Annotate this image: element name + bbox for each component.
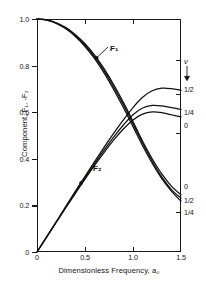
x-axis-title: Dimensionless Frequency, a₀ <box>20 266 198 275</box>
parameter-nu-symbol: ν <box>184 57 188 66</box>
tick-y-1.0 <box>32 19 37 20</box>
tick-x-1.0 <box>133 247 134 252</box>
tick-right-lower-2 <box>176 212 181 213</box>
tick-label-x-0.5: 0.5 <box>72 253 98 262</box>
nu-arrow-icon <box>185 66 190 81</box>
tick-label-y-1.0: 1.0 <box>3 15 29 24</box>
series-endpoint-label-f1-0: 0 <box>184 182 188 191</box>
tick-y-0.4 <box>32 159 37 160</box>
leader-f1-dot <box>95 56 98 59</box>
series-endpoint-label-f2-1/4: 1/4 <box>184 108 194 117</box>
curve-F2_nu_1/4 <box>37 105 181 252</box>
tick-label-x-0: 0 <box>24 253 50 262</box>
tick-right-lower-1 <box>176 133 181 134</box>
tick-y-0.6 <box>32 112 37 113</box>
leader-f1 <box>97 47 108 58</box>
tick-x-top-1.0 <box>133 19 134 24</box>
curve-F1_nu_0 <box>37 19 181 195</box>
tick-right-upper-2 <box>176 94 181 95</box>
curve-label-f1: F₁ <box>110 44 118 53</box>
series-endpoint-label-f2-0: 0 <box>184 121 188 130</box>
tick-y-0.2 <box>32 205 37 206</box>
figure-chart: 1.0 0.8 0.6 0.4 0.2 0 0 0.5 1.0 1.5 Comp… <box>0 0 206 287</box>
series-endpoint-label-f2-1/2: 1/2 <box>184 85 194 94</box>
curve-label-f2: F₂ <box>93 164 101 173</box>
tick-x-top-0.5 <box>85 19 86 24</box>
tick-label-y-0.2: 0.2 <box>3 201 29 210</box>
series-endpoint-label-f1-1/2: 1/2 <box>184 196 194 205</box>
curve-paths <box>37 19 181 252</box>
curve-F2_nu_0 <box>37 112 181 252</box>
leader-f2 <box>81 167 92 183</box>
tick-label-x-1.0: 1.0 <box>120 253 146 262</box>
tick-label-x-1.5: 1.5 <box>168 253 194 262</box>
curves-layer <box>0 0 206 287</box>
tick-right-upper-1 <box>176 60 181 61</box>
series-endpoint-label-f1-1/4: 1/4 <box>184 208 194 217</box>
tick-x-0.5 <box>85 247 86 252</box>
y-axis-title: Component, F₁, -F₂ <box>20 54 29 194</box>
tick-y-0.8 <box>32 66 37 67</box>
leader-f2-dot <box>80 182 83 185</box>
